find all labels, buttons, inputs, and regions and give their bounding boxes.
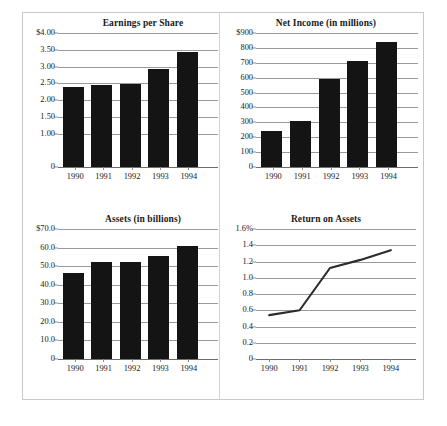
y-axis-tick-label: 1.00	[40, 129, 55, 137]
x-axis-tick	[390, 359, 391, 362]
y-axis-tick-label: 1.0	[243, 274, 253, 282]
y-axis-tick-label: 1.6%	[236, 225, 253, 233]
y-axis-tick-label: 0.8	[243, 290, 253, 298]
y-axis-tick-label: 800	[240, 44, 253, 52]
x-axis-tick	[132, 359, 133, 362]
x-axis-tick	[188, 359, 189, 362]
x-axis-tick	[103, 359, 104, 362]
x-axis-label-1990: 1990	[261, 364, 278, 373]
gridline	[58, 50, 218, 51]
line-series	[256, 229, 416, 359]
bar-1992	[120, 262, 141, 359]
y-axis-tick-label: 0	[249, 163, 253, 171]
x-axis-line	[256, 359, 416, 360]
x-axis-label-1992: 1992	[124, 364, 141, 373]
x-axis-tick	[160, 167, 161, 170]
y-axis-tick-label: 1.2	[243, 257, 253, 265]
x-axis-label-1992: 1992	[322, 364, 339, 373]
x-axis-tick	[75, 167, 76, 170]
x-axis-line	[256, 167, 418, 168]
chart-panel-return-on-assets: Return on Assets 1.6%1.41.21.00.80.60.40…	[220, 208, 424, 400]
y-axis-tick-label: 40.0	[40, 281, 55, 289]
plot-area-earnings-per-share: $4.003.503.002.502.001.501.0001990199119…	[58, 33, 206, 167]
bar-1992	[120, 84, 141, 167]
x-axis-label-1991: 1991	[291, 364, 308, 373]
gridline	[58, 33, 218, 34]
bar-1990	[63, 273, 84, 359]
y-axis-tick-label: 0	[249, 355, 253, 363]
plot-area-net-income: $900800700600500400300200100019901991199…	[256, 33, 406, 167]
bar-1990	[63, 87, 84, 167]
y-axis-tick-label: 0.6	[243, 306, 253, 314]
x-axis-label-1994: 1994	[382, 364, 399, 373]
y-axis-tick-label: 2.00	[40, 96, 55, 104]
x-axis-label-1993: 1993	[352, 364, 369, 373]
y-axis-tick-label: 60.0	[40, 243, 55, 251]
x-axis-tick	[188, 167, 189, 170]
y-axis-tick-label: $900	[236, 29, 253, 37]
y-axis-tick-label: $70.0	[36, 225, 55, 233]
y-axis-tick-label: 100	[240, 148, 253, 156]
x-axis-label-1991: 1991	[95, 172, 112, 181]
bar-1993	[148, 69, 169, 167]
x-axis-label-1994: 1994	[380, 172, 397, 181]
x-axis-tick	[269, 359, 270, 362]
bar-1993	[347, 61, 368, 167]
x-axis-tick	[160, 359, 161, 362]
x-axis-label-1991: 1991	[294, 172, 311, 181]
x-axis-tick	[360, 359, 361, 362]
bar-1994	[177, 52, 198, 167]
gridline	[256, 33, 418, 34]
y-axis-tick-label: 3.00	[40, 62, 55, 70]
x-axis-label-1993: 1993	[152, 364, 169, 373]
chart-panel-earnings-per-share: Earnings per Share $4.003.503.002.502.00…	[22, 12, 220, 208]
y-axis-tick-label: 20.0	[40, 318, 55, 326]
x-axis-label-1993: 1993	[351, 172, 368, 181]
y-axis-tick-label: 0.4	[243, 322, 253, 330]
x-axis-tick	[103, 167, 104, 170]
y-axis-tick-label: 700	[240, 59, 253, 67]
chart-title-earnings-per-share: Earnings per Share	[22, 18, 242, 29]
y-axis-tick-label: 0	[51, 163, 55, 171]
y-axis-tick-label: 600	[240, 73, 253, 81]
bar-1991	[290, 121, 311, 167]
chart-title-assets: Assets (in billions)	[22, 214, 242, 225]
x-axis-label-1992: 1992	[323, 172, 340, 181]
y-axis-tick-label: 30.0	[40, 299, 55, 307]
gridline	[58, 229, 218, 230]
bar-1992	[319, 79, 340, 167]
y-axis-tick-label: 50.0	[40, 262, 55, 270]
plot-area-return-on-assets: 1.6%1.41.21.00.80.60.40.2019901991199219…	[256, 229, 408, 359]
x-axis-label-1992: 1992	[124, 172, 141, 181]
y-axis-tick-label: 10.0	[40, 336, 55, 344]
x-axis-line	[58, 167, 218, 168]
x-axis-label-1994: 1994	[180, 172, 197, 181]
x-axis-label-1990: 1990	[67, 172, 84, 181]
y-axis-tick-label: 1.50	[40, 113, 55, 121]
y-axis-tick-label: 1.4	[243, 241, 253, 249]
chart-panel-net-income: Net Income (in millions) $90080070060050…	[220, 12, 424, 208]
y-axis-tick-label: 3.50	[40, 46, 55, 54]
y-axis-tick-label: 2.50	[40, 79, 55, 87]
bar-1991	[91, 85, 112, 167]
bar-1991	[91, 262, 112, 359]
x-axis-tick	[75, 359, 76, 362]
bar-1994	[376, 42, 397, 167]
bar-1994	[177, 246, 198, 359]
x-axis-tick	[302, 167, 303, 170]
x-axis-tick	[299, 359, 300, 362]
x-axis-label-1994: 1994	[180, 364, 197, 373]
x-axis-tick	[388, 167, 389, 170]
x-axis-label-1993: 1993	[152, 172, 169, 181]
bar-1993	[148, 256, 169, 359]
x-axis-tick	[273, 167, 274, 170]
y-axis-tick-label: 200	[240, 133, 253, 141]
x-axis-line	[58, 359, 218, 360]
x-axis-label-1991: 1991	[95, 364, 112, 373]
x-axis-tick	[359, 167, 360, 170]
y-axis-tick-label: 300	[240, 118, 253, 126]
chart-panel-assets: Assets (in billions) $70.060.050.040.030…	[22, 208, 220, 400]
x-axis-tick	[132, 167, 133, 170]
y-axis-tick-label: 0	[51, 355, 55, 363]
y-axis-tick-label: 400	[240, 103, 253, 111]
